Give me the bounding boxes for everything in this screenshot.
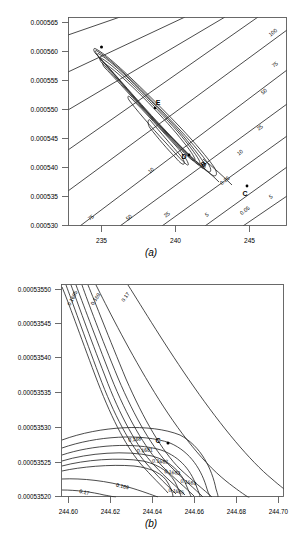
- contour-label: 50: [260, 87, 268, 95]
- panel-a-y-axis: 0.000565 0.000560 0.000555 0.000550 0.00…: [30, 19, 68, 229]
- contour-label: 10: [236, 148, 244, 156]
- contour-label: 0.1683: [164, 468, 181, 476]
- y-tick-label: 0.000565: [30, 19, 58, 26]
- contour-label: 75: [271, 60, 279, 68]
- data-point-marker-c: [246, 185, 249, 188]
- point-label-e: E: [156, 99, 161, 106]
- contour-label: 0.1685: [66, 290, 79, 307]
- y-tick-label: 0.000555: [30, 77, 58, 84]
- x-tick-label: 244.62: [101, 508, 121, 515]
- x-tick-label: 244.70: [269, 508, 289, 515]
- x-tick-label: 244.64: [143, 508, 163, 515]
- panel-b: 0.00053550 0.00053545 0.00053540 0.00053…: [0, 275, 302, 550]
- contour-label: 0.169: [89, 292, 101, 306]
- data-point-marker-e: [154, 107, 157, 110]
- point-label-d: D: [181, 153, 186, 160]
- point-label-c: C: [155, 437, 160, 444]
- x-tick-label: 240: [170, 237, 181, 244]
- contour-label: 25: [256, 123, 264, 131]
- contour-figure: 0.000565 0.000560 0.000555 0.000550 0.00…: [0, 0, 302, 550]
- x-tick-label: 244.60: [59, 508, 79, 515]
- contour-label: 0.17: [79, 488, 90, 496]
- panel-b-caption: (b): [0, 518, 302, 529]
- contour-label: 0.168: [128, 435, 142, 442]
- x-tick-label: 245: [244, 237, 255, 244]
- y-tick-label: 0.000540: [30, 164, 58, 171]
- panel-b-contour-labels: 0.1685 0.169 0.17 0.168 0.1681 0.1682 0.…: [66, 290, 197, 497]
- data-point-marker: [100, 46, 103, 49]
- x-tick-label: 244.68: [227, 508, 247, 515]
- panel-a-contour-labels: 100 75 50 25 10 5 0.25 0.05 75 50 25 10 …: [87, 27, 279, 221]
- contour-label: 10: [147, 166, 155, 174]
- panel-a-plot: 0.000565 0.000560 0.000555 0.000550 0.00…: [0, 0, 302, 258]
- contour-label: 0.25: [219, 175, 231, 186]
- panel-b-x-axis: 244.60 244.62 244.64 244.66 244.68 244.7…: [59, 497, 289, 516]
- contour-label: 0.05: [239, 205, 251, 216]
- contour-label: 0.169: [115, 482, 129, 491]
- y-tick-label: 0.00053530: [18, 424, 52, 431]
- y-tick-label: 0.00053520: [18, 493, 52, 500]
- x-tick-label: 244.66: [185, 508, 205, 515]
- panel-b-y-axis: 0.00053550 0.00053545 0.00053540 0.00053…: [18, 286, 62, 500]
- panel-a: 0.000565 0.000560 0.000555 0.000550 0.00…: [0, 0, 302, 275]
- y-tick-label: 0.000535: [30, 193, 58, 200]
- panel-b-plot: 0.00053550 0.00053545 0.00053540 0.00053…: [0, 275, 302, 530]
- y-tick-label: 0.000560: [30, 48, 58, 55]
- contour-label: 25: [163, 210, 171, 218]
- contour-label: 0.1685: [168, 487, 185, 496]
- point-label-c: C: [242, 190, 247, 197]
- contour-label: 0.1682: [152, 457, 168, 464]
- contour-label: 100: [267, 27, 278, 37]
- contour-label: 0.17: [120, 291, 131, 303]
- y-tick-label: 0.00053545: [18, 320, 52, 327]
- y-tick-label: 0.00053535: [18, 389, 52, 396]
- y-tick-label: 0.00053550: [18, 286, 52, 293]
- y-tick-label: 0.00053525: [18, 459, 52, 466]
- panel-a-frame: [69, 18, 287, 226]
- y-tick-label: 0.00053540: [18, 354, 52, 361]
- y-tick-label: 0.000530: [30, 222, 58, 229]
- contour-label: 5: [268, 193, 274, 200]
- y-tick-label: 0.000545: [30, 135, 58, 142]
- panel-a-caption: (a): [0, 247, 302, 258]
- contour-label: 50: [125, 213, 133, 221]
- panel-a-x-axis: 235 240 245: [96, 226, 255, 245]
- x-tick-label: 235: [96, 237, 107, 244]
- contour-label: 0.1681: [137, 446, 153, 453]
- y-tick-label: 0.000550: [30, 106, 58, 113]
- contour-label: 5: [204, 211, 210, 218]
- data-point-marker-c: [167, 442, 170, 445]
- panel-b-frame: [62, 285, 284, 497]
- data-point-marker-d: [188, 154, 191, 157]
